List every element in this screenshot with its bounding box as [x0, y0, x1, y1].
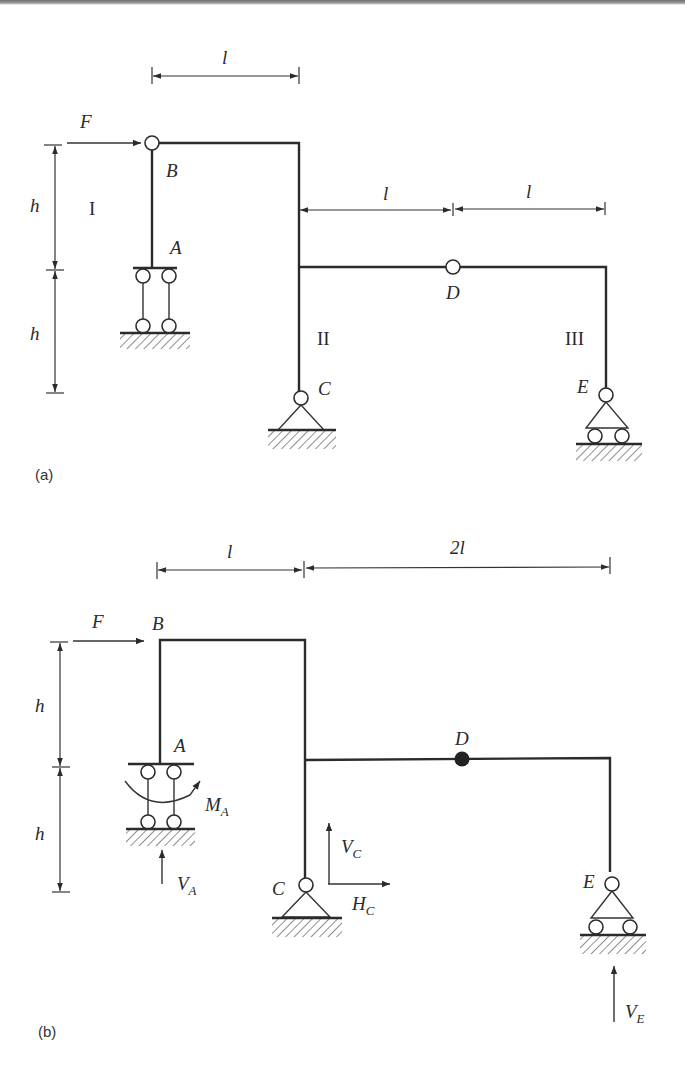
reaction-VE: VE: [614, 966, 645, 1026]
reaction-VC-HC: VC HC: [328, 823, 390, 918]
svg-text:VC: VC: [341, 836, 362, 861]
load-label-F-b: F: [91, 611, 104, 632]
support-E: [576, 388, 642, 461]
dim-label-l-mid-right: l: [526, 181, 531, 202]
node-label-B-b: B: [152, 613, 164, 634]
node-label-D-b: D: [454, 728, 469, 749]
structural-diagram: l h h F B I: [0, 0, 685, 1089]
dim-label-l-mid-left: l: [383, 183, 388, 204]
caption-b: (b): [38, 1023, 56, 1040]
reaction-VA: VA: [162, 850, 197, 898]
dim-height-b: h h: [35, 642, 70, 892]
svg-text:MA: MA: [204, 794, 229, 819]
node-label-A-b: A: [172, 735, 186, 756]
load-F-b: F: [73, 611, 144, 641]
dim-label-h-upper: h: [30, 195, 40, 216]
hinge-D-solid: [455, 752, 470, 767]
member-III: [460, 267, 606, 388]
hinge-D: [446, 260, 460, 274]
node-label-C-b: C: [272, 878, 285, 899]
figure-b: l 2l h h F B D: [35, 537, 646, 1040]
node-label-E: E: [576, 376, 589, 397]
member-label-III: III: [565, 328, 584, 349]
member-label-I: I: [89, 198, 95, 219]
svg-text:VA: VA: [177, 873, 197, 898]
dim-mid-spans: l l: [300, 181, 605, 216]
dim-top-span: l: [152, 47, 299, 84]
node-label-A: A: [168, 237, 182, 258]
member-label-II: II: [317, 328, 330, 349]
hinge-B: [145, 136, 159, 150]
moment-MA: MA: [125, 781, 229, 819]
dim-label-2l-b: 2l: [450, 537, 465, 558]
load-F: F: [67, 111, 141, 143]
node-label-C: C: [318, 378, 331, 399]
dim-height: h h: [30, 145, 64, 393]
node-label-B: B: [166, 160, 178, 181]
dim-label-h-lower-b: h: [35, 823, 45, 844]
member-BC-frame: [158, 143, 299, 393]
svg-text:HC: HC: [351, 893, 375, 918]
load-label-F: F: [79, 111, 92, 132]
node-label-D: D: [445, 282, 460, 303]
dim-label-h-lower: h: [30, 323, 40, 344]
dim-label-l: l: [222, 47, 227, 68]
figure-a: l h h F B I: [30, 47, 642, 483]
node-label-E-b: E: [582, 871, 595, 892]
dim-label-l-b: l: [227, 541, 232, 562]
dim-spans-b: l 2l: [157, 537, 610, 579]
dim-label-h-upper-b: h: [35, 695, 45, 716]
support-C: [268, 391, 336, 449]
svg-text:VE: VE: [625, 1001, 645, 1026]
support-A: [120, 268, 190, 349]
support-A-b: [126, 764, 195, 846]
caption-a: (a): [35, 466, 53, 483]
